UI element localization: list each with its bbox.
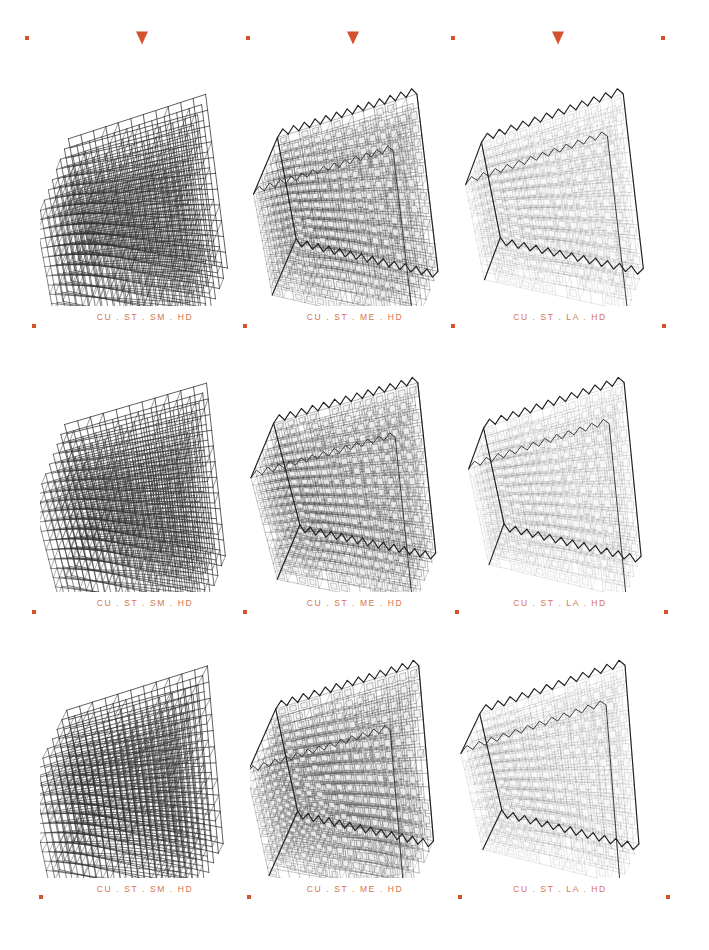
- gallery-cell-r2c2[interactable]: CU . ST . ME . HD: [250, 364, 460, 608]
- gallery-cell-r3c1[interactable]: CU . ST . SM . HD: [40, 650, 250, 894]
- gallery-cell-r2c1[interactable]: CU . ST . SM . HD: [40, 364, 250, 608]
- cell-caption: CU . ST . ME . HD: [250, 598, 460, 608]
- shaded-grid-lattice-r2c2: [250, 364, 460, 592]
- sparse-diamond-shell-r2c3: [455, 364, 665, 592]
- gallery-cell-r1c1[interactable]: CU . ST . SM . HD: [40, 78, 250, 322]
- cell-caption: CU . ST . LA . HD: [455, 598, 665, 608]
- dense-wire-lattice-r1c1: [40, 78, 250, 306]
- sparse-diamond-shell-r1c3: [455, 78, 665, 306]
- gallery-cell-r1c3[interactable]: CU . ST . LA . HD: [455, 78, 665, 322]
- shaded-grid-lattice-r1c2: [250, 78, 460, 306]
- cell-caption: CU . ST . ME . HD: [250, 312, 460, 322]
- poster-page: CU . ST . SM . HDCU . ST . ME . HDCU . S…: [0, 0, 709, 950]
- cell-caption: CU . ST . ME . HD: [250, 884, 460, 894]
- gallery-cell-r1c2[interactable]: CU . ST . ME . HD: [250, 78, 460, 322]
- dense-wire-lattice-r3c1: [40, 650, 250, 878]
- cell-caption: CU . ST . SM . HD: [40, 598, 250, 608]
- cell-caption: CU . ST . LA . HD: [455, 312, 665, 322]
- dense-wire-lattice-r2c1: [40, 364, 250, 592]
- gallery-cell-r3c2[interactable]: CU . ST . ME . HD: [250, 650, 460, 894]
- gallery-cell-r3c3[interactable]: CU . ST . LA . HD: [455, 650, 665, 894]
- gallery-cell-r2c3[interactable]: CU . ST . LA . HD: [455, 364, 665, 608]
- lattice-gallery-grid: CU . ST . SM . HDCU . ST . ME . HDCU . S…: [0, 0, 709, 950]
- cell-caption: CU . ST . SM . HD: [40, 312, 250, 322]
- shaded-grid-lattice-r3c2: [250, 650, 460, 878]
- cell-caption: CU . ST . LA . HD: [455, 884, 665, 894]
- sparse-diamond-shell-r3c3: [455, 650, 665, 878]
- cell-caption: CU . ST . SM . HD: [40, 884, 250, 894]
